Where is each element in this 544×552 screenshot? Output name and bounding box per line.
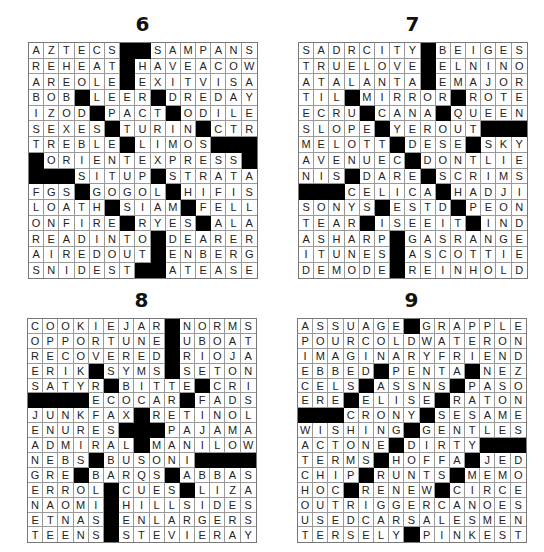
- letter-cell: Q: [134, 468, 149, 483]
- letter-cell: R: [210, 319, 225, 334]
- letter-cell: I: [44, 247, 59, 263]
- letter-cell: S: [404, 513, 419, 528]
- letter-cell: S: [181, 216, 196, 232]
- letter-cell: S: [150, 468, 165, 483]
- letter-cell: K: [496, 137, 511, 153]
- letter-cell: M: [329, 263, 344, 279]
- letter-cell: C: [436, 247, 451, 263]
- letter-cell: T: [466, 121, 481, 137]
- letter-cell: L: [226, 200, 241, 216]
- letter-cell: D: [150, 349, 165, 364]
- letter-cell: L: [329, 90, 344, 106]
- letter-cell: H: [298, 483, 313, 498]
- letter-cell: N: [44, 216, 59, 232]
- letter-cell: L: [29, 200, 44, 216]
- letter-cell: O: [58, 498, 73, 513]
- letter-cell: G: [420, 319, 435, 334]
- letter-cell: A: [104, 438, 119, 453]
- letter-cell: F: [211, 184, 226, 200]
- letter-cell: T: [241, 334, 256, 349]
- letter-cell: I: [466, 43, 481, 59]
- letter-cell: N: [374, 349, 389, 364]
- letter-cell: E: [360, 247, 375, 263]
- letter-cell: L: [226, 106, 241, 122]
- letter-cell: T: [511, 527, 526, 542]
- letter-cell: P: [465, 379, 480, 394]
- letter-cell: N: [451, 153, 466, 169]
- letter-cell: N: [359, 438, 374, 453]
- letter-cell: D: [436, 200, 451, 216]
- letter-cell: S: [360, 200, 375, 216]
- letter-cell: R: [28, 349, 43, 364]
- letter-cell: B: [59, 90, 74, 106]
- letter-cell: E: [43, 349, 58, 364]
- letter-cell: E: [298, 364, 313, 379]
- puzzle-number: 8: [27, 288, 256, 312]
- black-square: [360, 106, 375, 122]
- letter-cell: E: [150, 483, 165, 498]
- letter-cell: N: [180, 438, 195, 453]
- letter-cell: S: [89, 527, 104, 542]
- letter-cell: A: [166, 263, 181, 279]
- letter-cell: S: [105, 43, 120, 59]
- black-square: [105, 121, 120, 137]
- letter-cell: I: [512, 184, 527, 200]
- letter-cell: S: [435, 379, 450, 394]
- letter-cell: T: [120, 231, 135, 247]
- letter-cell: T: [465, 423, 480, 438]
- letter-cell: R: [150, 319, 165, 334]
- letter-cell: D: [90, 247, 105, 263]
- letter-cell: D: [166, 90, 181, 106]
- black-square: [465, 364, 480, 379]
- letter-cell: E: [105, 137, 120, 153]
- letter-cell: S: [242, 43, 257, 59]
- letter-cell: S: [421, 247, 436, 263]
- letter-cell: T: [451, 216, 466, 232]
- letter-cell: T: [43, 513, 58, 528]
- black-square: [389, 438, 404, 453]
- letter-cell: Y: [420, 349, 435, 364]
- letter-cell: I: [313, 423, 328, 438]
- letter-cell: T: [180, 408, 195, 423]
- letter-cell: O: [436, 153, 451, 169]
- letter-cell: E: [58, 527, 73, 542]
- letter-cell: E: [135, 74, 150, 90]
- letter-cell: Y: [119, 364, 134, 379]
- letter-cell: R: [225, 379, 240, 394]
- black-square: [298, 408, 313, 423]
- letter-cell: O: [74, 334, 89, 349]
- black-square: [120, 216, 135, 232]
- letter-cell: E: [481, 106, 496, 122]
- letter-cell: Y: [404, 408, 419, 423]
- letter-cell: U: [180, 334, 195, 349]
- letter-cell: F: [89, 408, 104, 423]
- letter-cell: T: [314, 247, 329, 263]
- letter-cell: N: [375, 74, 390, 90]
- letter-cell: T: [299, 59, 314, 75]
- letter-cell: U: [328, 334, 343, 349]
- letter-cell: A: [298, 438, 313, 453]
- black-square: [196, 216, 211, 232]
- black-square: [134, 423, 149, 438]
- black-square: [435, 393, 450, 408]
- letter-cell: A: [210, 393, 225, 408]
- letter-cell: M: [225, 319, 240, 334]
- letter-cell: Y: [345, 200, 360, 216]
- letter-cell: I: [496, 247, 511, 263]
- black-square: [496, 121, 511, 137]
- black-square: [180, 483, 195, 498]
- letter-cell: D: [360, 263, 375, 279]
- black-square: [344, 393, 359, 408]
- letter-cell: F: [196, 200, 211, 216]
- letter-cell: O: [374, 334, 389, 349]
- letter-cell: F: [195, 393, 210, 408]
- letter-cell: S: [226, 153, 241, 169]
- letter-cell: E: [480, 468, 495, 483]
- letter-cell: C: [344, 408, 359, 423]
- letter-cell: C: [450, 483, 465, 498]
- letter-cell: V: [165, 527, 180, 542]
- letter-cell: R: [43, 364, 58, 379]
- letter-cell: A: [390, 106, 405, 122]
- black-square: [28, 393, 43, 408]
- letter-cell: I: [465, 483, 480, 498]
